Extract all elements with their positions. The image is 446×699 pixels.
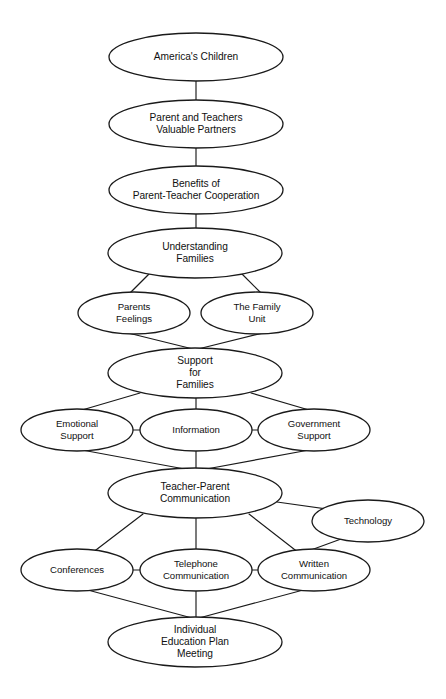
node-label-line: The Family (234, 300, 281, 311)
node-label-line: Technology (344, 515, 392, 526)
node-support-for-families[interactable]: SupportforFamilies (108, 348, 282, 398)
edge-understanding-families-to-parents-feelings (130, 273, 150, 293)
node-label-line: Support (60, 430, 94, 441)
node-label-line: Conferences (50, 564, 104, 575)
node-label-line: for (189, 367, 201, 378)
node-understanding-families[interactable]: UnderstandingFamilies (108, 228, 282, 278)
node-label-line: Support (297, 430, 331, 441)
node-label-line: Government (288, 417, 341, 428)
node-label-line: Individual (174, 623, 217, 634)
node-label-line: Families (176, 379, 214, 390)
node-individual-education-plan-meeting[interactable]: IndividualEducation PlanMeeting (108, 617, 282, 667)
edge-teacher-parent-communication-to-written-communication (249, 514, 299, 553)
node-label-line: Communication (160, 493, 230, 504)
edge-written-communication-to-individual-education-plan-meeting (199, 589, 307, 618)
node-conferences[interactable]: Conferences (21, 549, 133, 591)
concept-map-canvas: America's ChildrenParent and TeachersVal… (0, 0, 446, 699)
concept-map-diagram: America's ChildrenParent and TeachersVal… (0, 0, 446, 699)
node-label-line: Communication (281, 570, 347, 581)
node-information[interactable]: Information (140, 409, 252, 451)
node-label-line: Unit (249, 313, 266, 324)
edge-teacher-parent-communication-to-conferences (92, 514, 143, 553)
edge-emotional-support-to-teacher-parent-communication (82, 450, 190, 470)
node-label-line: Understanding (162, 240, 228, 251)
node-label-americas-children: America's Children (154, 51, 238, 62)
node-label-line: Parent and Teachers (150, 111, 243, 122)
node-label-line: Education Plan (161, 636, 229, 647)
node-label-parent-and-teachers-valuable-partners: Parent and TeachersValuable Partners (150, 111, 243, 134)
node-emotional-support[interactable]: EmotionalSupport (21, 409, 133, 451)
edge-government-support-to-teacher-parent-communication (201, 450, 309, 470)
node-label-line: Support (177, 354, 213, 365)
node-label-line: Emotional (56, 417, 98, 428)
node-label-line: America's Children (154, 51, 238, 62)
node-label-line: Parent-Teacher Cooperation (133, 190, 260, 201)
node-label-technology: Technology (344, 515, 392, 526)
node-parents-feelings[interactable]: ParentsFeelings (78, 292, 190, 334)
edge-conferences-to-individual-education-plan-meeting (84, 589, 192, 618)
node-technology[interactable]: Technology (312, 500, 424, 542)
node-label-information: Information (172, 424, 219, 435)
node-label-line: Teacher-Parent (161, 480, 230, 491)
node-americas-children[interactable]: America's Children (109, 33, 283, 81)
node-teacher-parent-communication[interactable]: Teacher-ParentCommunication (108, 468, 282, 518)
node-written-communication[interactable]: WrittenCommunication (258, 549, 370, 591)
node-label-line: Telephone (174, 557, 218, 568)
nodes-layer: America's ChildrenParent and TeachersVal… (21, 33, 424, 667)
node-label-line: Communication (163, 570, 229, 581)
edge-understanding-families-to-the-family-unit (241, 273, 261, 293)
node-label-teacher-parent-communication: Teacher-ParentCommunication (160, 480, 230, 503)
node-government-support[interactable]: GovernmentSupport (258, 409, 370, 451)
node-label-line: Families (176, 253, 214, 264)
node-label-parents-feelings: ParentsFeelings (116, 300, 152, 323)
node-label-line: Information (172, 424, 219, 435)
node-label-line: Meeting (177, 648, 213, 659)
node-the-family-unit[interactable]: The FamilyUnit (201, 292, 313, 334)
edge-support-for-families-to-government-support (251, 393, 309, 410)
node-parent-and-teachers-valuable-partners[interactable]: Parent and TeachersValuable Partners (109, 100, 283, 148)
node-label-line: Valuable Partners (156, 124, 235, 135)
node-label-line: Benefits of (172, 177, 220, 188)
node-label-line: Feelings (116, 313, 152, 324)
node-telephone-communication[interactable]: TelephoneCommunication (140, 549, 252, 591)
node-label-emotional-support: EmotionalSupport (56, 417, 98, 440)
node-label-line: Parents (118, 300, 151, 311)
edge-support-for-families-to-emotional-support (82, 393, 140, 410)
node-benefits-of-parent-teacher-cooperation[interactable]: Benefits ofParent-Teacher Cooperation (109, 166, 283, 214)
node-label-conferences: Conferences (50, 564, 104, 575)
node-label-line: Written (299, 557, 329, 568)
